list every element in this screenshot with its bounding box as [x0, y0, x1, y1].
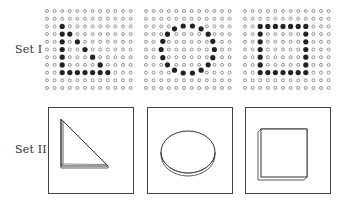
- dot-grid-square: [241, 7, 336, 95]
- solid-square-icon: [245, 107, 331, 194]
- solid-square-box: [245, 107, 331, 194]
- dot-grid-circle: [142, 7, 237, 95]
- solid-triangle-icon: [48, 107, 134, 194]
- solid-disc-icon: [147, 107, 233, 194]
- set-2-label: Set II: [15, 143, 47, 156]
- solid-disc-box: [147, 107, 233, 194]
- dot-grid-triangle: [43, 7, 138, 95]
- set-1-label: Set I: [15, 43, 42, 56]
- solid-triangle-box: [48, 107, 134, 194]
